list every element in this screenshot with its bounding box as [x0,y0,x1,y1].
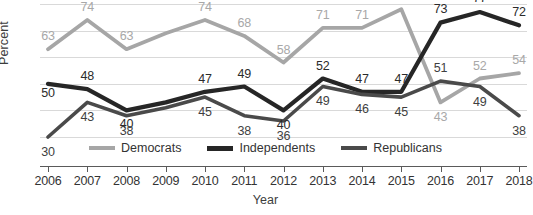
x-tick-label: 2013 [309,174,336,188]
data-label: 47 [355,73,369,86]
x-tick [87,166,88,172]
legend-label: Republicans [373,141,442,155]
data-label: 73 [434,2,448,15]
data-label: 52 [473,59,487,72]
data-label: 49 [473,95,487,108]
x-tick-label: 2006 [34,174,61,188]
x-tick-label: 2012 [270,174,297,188]
data-label: 43 [434,111,448,124]
data-label: 49 [316,94,330,107]
x-tick-label: 2009 [152,174,179,188]
data-label: 47 [395,73,409,86]
data-label: 63 [120,30,134,43]
data-label: 45 [198,106,212,119]
data-label: 71 [316,9,330,22]
x-tick [519,166,520,172]
x-tick-label: 2015 [388,174,415,188]
x-tick [480,166,481,172]
y-axis-title: Percent [0,0,11,88]
legend-label: Democrats [121,141,181,155]
legend-item-republicans[interactable]: Republicans [341,141,442,155]
data-label: 71 [355,9,369,22]
legend-swatch-icon [341,146,367,150]
x-tick [284,166,285,172]
data-label: 50 [41,87,55,100]
data-label: 38 [120,124,134,137]
data-label: 48 [81,70,95,83]
data-label: 47 [198,73,212,86]
x-tick [166,166,167,172]
data-label: 45 [395,106,409,119]
x-tick [205,166,206,172]
data-label: 68 [238,17,252,30]
x-tick [244,166,245,172]
legend-item-democrats[interactable]: Democrats [89,141,181,155]
x-tick [323,166,324,172]
data-label: 78 [395,0,409,3]
x-tick [401,166,402,172]
legend-swatch-icon [89,146,115,150]
data-label: 72 [512,6,526,19]
data-label: 49 [238,67,252,80]
data-label: 38 [512,124,526,137]
data-label: 54 [512,54,526,67]
x-tick-label: 2016 [427,174,454,188]
x-tick-label: 2007 [74,174,101,188]
x-tick-label: 2014 [348,174,375,188]
x-axis-title: Year [0,193,531,207]
x-tick [48,166,49,172]
data-label: 51 [434,62,448,75]
x-tick-label: 2017 [466,174,493,188]
data-label: 43 [81,111,95,124]
plot-area: 6374637468587171784352545048404749405247… [40,4,527,137]
series-lines [40,4,527,137]
chart-legend: DemocratsIndependentsRepublicans [0,140,531,156]
data-label: 38 [238,124,252,137]
data-label: 74 [198,1,212,14]
x-tick-label: 2018 [505,174,532,188]
legend-item-independents[interactable]: Independents [207,141,315,155]
x-tick-label: 2010 [191,174,218,188]
x-tick [362,166,363,172]
x-tick-label: 2011 [231,174,257,188]
x-tick-label: 2008 [113,174,140,188]
data-label: 58 [277,43,291,56]
data-label: 74 [81,1,95,14]
x-tick [441,166,442,172]
legend-swatch-icon [207,146,233,151]
data-label: 52 [316,59,330,72]
data-label: 77 [473,0,487,4]
x-tick [127,166,128,172]
data-label: 63 [41,30,55,43]
data-label: 46 [355,103,369,116]
legend-label: Independents [239,141,315,155]
